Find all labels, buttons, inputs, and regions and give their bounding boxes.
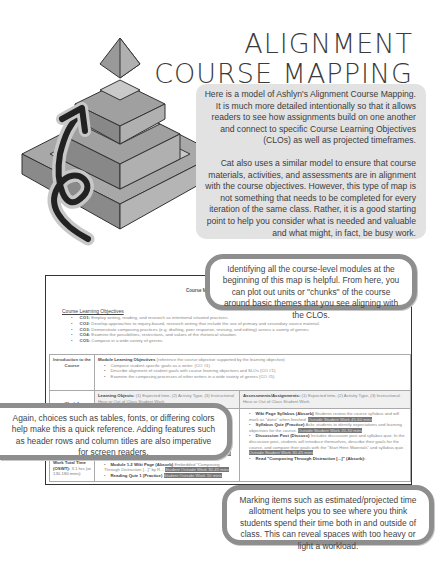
callout-time-allotment: Marking items such as estimated/projecte… [222,485,434,545]
table-row: Introduction to the Course Module Learni… [50,355,411,391]
clo-list: CO1: Employ writing, reading, and resear… [71,315,401,344]
intro-text-box: Here is a model of Ashlyn's Alignment Co… [196,84,426,239]
assessments-cell: Wiki Page Syllabus (Absorb) Students rev… [240,409,411,482]
intro-label-cell: Introduction to the Course [50,355,95,391]
callout-accessibility: Again, choices such as tables, fonts, or… [0,403,232,460]
intro-paragraph-1: Here is a model of Ashlyn's Alignment Co… [204,89,416,147]
page-title: ALIGNMENT COURSE MAPPING [154,30,413,87]
clo-item: CO5: Compose in a wide variety of genres… [71,338,401,344]
assessments-header: Assessments/Assignments: (1) Expected ti… [240,391,411,409]
title-line-1: ALIGNMENT [154,30,413,57]
callout-modules: Identifying all the course-level modules… [205,254,417,310]
clo-heading: Course Learning Objectives [62,308,124,314]
intro-paragraph-2: Cat also uses a similar model to ensure … [204,158,416,239]
module-objectives-cell: Module Learning Objectives (reference th… [95,355,411,391]
title-line-2: COURSE MAPPING [154,60,413,87]
